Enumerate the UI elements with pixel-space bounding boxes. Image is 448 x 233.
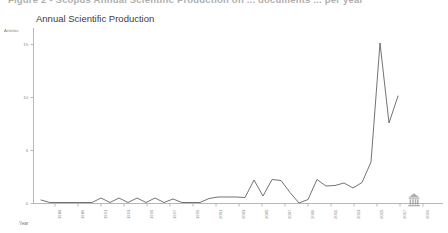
x-tick-label-14: 2015: [379, 210, 384, 219]
x-tick-label-9: 2005: [264, 210, 269, 219]
x-tick-label-13: 2013: [356, 210, 361, 219]
x-tick-label-12: 2011: [333, 210, 338, 219]
series-line-articles: [41, 43, 398, 203]
x-tick-label-3: 1993: [126, 210, 131, 219]
bibliometrix-logo-icon: [405, 192, 423, 208]
y-tick-label-0: 0: [14, 201, 28, 206]
x-tick-label-16: 2019: [425, 210, 430, 219]
x-tick-label-7: 2001: [218, 210, 223, 219]
plot-area: [0, 10, 448, 233]
chart-figure: Annual Scientific Production Articles Ye…: [0, 10, 448, 233]
y-tick-label-10: 10: [14, 95, 28, 100]
x-tick-label-6: 1999: [195, 210, 200, 219]
figure-caption-text: Figure 2 - Scopus Annual Scientific Prod…: [8, 0, 363, 5]
x-tick-label-10: 2007: [287, 210, 292, 219]
x-tick-label-4: 1995: [149, 210, 154, 219]
x-tick-label-1: 1989: [80, 210, 85, 219]
x-tick-label-5: 1997: [172, 210, 177, 219]
x-tick-label-15: 2017: [402, 210, 407, 219]
x-tick-label-0: 1986: [57, 210, 62, 219]
y-tick-label-5: 5: [14, 148, 28, 153]
x-tick-label-2: 1991: [103, 210, 108, 219]
x-tick-label-11: 2009: [310, 210, 315, 219]
x-tick-label-8: 2003: [241, 210, 246, 219]
y-tick-label-15: 15: [14, 42, 28, 47]
